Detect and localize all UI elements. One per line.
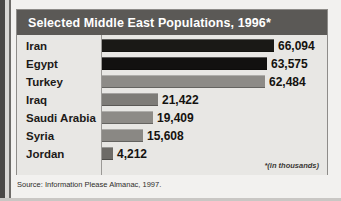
bar-and-value: 4,212 — [102, 147, 147, 160]
category-label: Jordan — [26, 148, 64, 160]
bar-row: Iraq21,422 — [17, 91, 327, 109]
chart-screenshot: Selected Middle East Populations, 1996* … — [0, 0, 341, 201]
bar-value-label: 62,484 — [269, 75, 306, 89]
bar-value-label: 19,409 — [157, 111, 194, 125]
bar-row: Egypt63,575 — [17, 55, 327, 73]
bar-value-label: 4,212 — [117, 147, 147, 161]
chart-container: Selected Middle East Populations, 1996* … — [16, 9, 328, 175]
bar-and-value: 21,422 — [102, 93, 199, 106]
chart-title-bar: Selected Middle East Populations, 1996* — [17, 10, 327, 35]
bar-value-label: 21,422 — [162, 93, 199, 107]
bar-and-value: 19,409 — [102, 111, 194, 124]
bar-value-label: 63,575 — [271, 57, 308, 71]
bar — [102, 111, 153, 124]
category-label: Syria — [26, 130, 54, 142]
bar-rows: Iran66,094Egypt63,575Turkey62,484Iraq21,… — [17, 37, 327, 163]
bar-row: Iran66,094 — [17, 37, 327, 55]
bar-and-value: 63,575 — [102, 57, 308, 70]
bar-row: Turkey62,484 — [17, 73, 327, 91]
page-bottom-edge — [0, 198, 341, 201]
bar-value-label: 15,608 — [147, 129, 184, 143]
bar — [102, 75, 265, 88]
source-caption: Source: Information Please Almanac, 1997… — [17, 180, 161, 189]
category-label: Saudi Arabia — [26, 112, 96, 124]
category-label: Iraq — [26, 94, 47, 106]
bar-and-value: 62,484 — [102, 75, 306, 88]
bar-and-value: 66,094 — [102, 39, 315, 52]
units-footnote: *(in thousands) — [264, 161, 319, 170]
bar — [102, 93, 158, 106]
bar — [102, 57, 267, 70]
category-label: Turkey — [26, 76, 63, 88]
bar-row: Saudi Arabia19,409 — [17, 109, 327, 127]
bar-row: Syria15,608 — [17, 127, 327, 145]
bar-value-label: 66,094 — [278, 39, 315, 53]
category-label: Iran — [26, 40, 47, 52]
category-label: Egypt — [26, 58, 58, 70]
bar-and-value: 15,608 — [102, 129, 184, 142]
bar — [102, 147, 113, 160]
bar — [102, 39, 274, 52]
plot-area: Iran66,094Egypt63,575Turkey62,484Iraq21,… — [17, 35, 327, 175]
bar — [102, 129, 143, 142]
chart-title: Selected Middle East Populations, 1996* — [28, 16, 271, 30]
